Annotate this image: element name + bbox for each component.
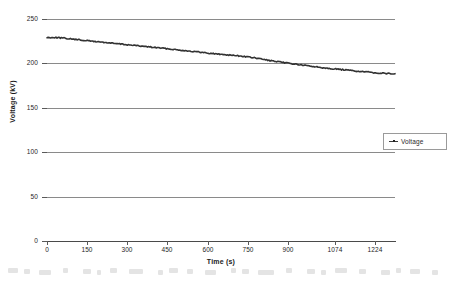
scan-noise-blob (8, 268, 18, 273)
x-tick-label: 1074 (315, 246, 355, 254)
plot-area (47, 19, 395, 241)
x-tick-label: 1224 (355, 246, 395, 254)
y-tick-label: 250 (27, 15, 38, 23)
y-tick-label: 0 (34, 237, 38, 245)
x-tick-mark (87, 241, 88, 245)
y-tick-label: 150 (27, 104, 38, 112)
scan-noise (8, 268, 338, 277)
scan-noise-blob (187, 269, 193, 274)
scan-noise-blob (286, 268, 292, 273)
x-axis-title: Time (s) (47, 258, 395, 265)
y-tick-label: 50 (31, 193, 38, 201)
voltage-decay-chart: Voltage (kV) 050100150200250 01503004506… (0, 0, 458, 283)
x-tick-label: 0 (27, 246, 67, 254)
x-tick-mark (288, 241, 289, 245)
y-tick-label: 100 (27, 148, 38, 156)
scan-noise-blob (231, 268, 236, 273)
x-tick-label: 900 (268, 246, 308, 254)
y-axis-title: Voltage (kV) (9, 52, 16, 152)
x-tick-label: 750 (228, 246, 268, 254)
scan-noise-blob (396, 268, 401, 273)
x-tick-mark (47, 241, 48, 245)
scan-noise-blob (39, 270, 51, 275)
line-dot-marker-icon (389, 138, 398, 145)
x-axis-line (47, 241, 396, 242)
scan-noise-blob (242, 269, 249, 274)
scan-noise-blob (410, 269, 420, 274)
scan-noise-blob (97, 270, 101, 275)
x-tick-mark (248, 241, 249, 245)
series-voltage-line (47, 19, 395, 241)
scan-noise-blob (335, 268, 347, 273)
x-tick-label: 450 (147, 246, 187, 254)
scan-noise-blob (129, 269, 143, 274)
x-tick-label: 300 (107, 246, 147, 254)
x-tick-label: 150 (67, 246, 107, 254)
scan-noise-blob (381, 270, 390, 275)
legend-entry-label: Voltage (401, 138, 423, 145)
scan-noise-blob (169, 268, 178, 273)
x-tick-mark (208, 241, 209, 245)
scan-noise-blob (158, 270, 163, 275)
scan-noise-blob (205, 270, 216, 275)
y-tick-mark (42, 108, 47, 109)
scan-noise-blob (432, 270, 438, 275)
y-tick-mark (42, 19, 47, 20)
scan-noise-blob (321, 270, 326, 275)
x-tick-mark (335, 241, 336, 245)
scan-noise-blob (24, 269, 30, 274)
scan-noise-blob (258, 270, 274, 275)
scan-noise-blob (83, 269, 91, 274)
legend: Voltage (383, 133, 447, 150)
scan-noise-blob (63, 268, 68, 273)
x-tick-mark (167, 241, 168, 245)
x-tick-mark (127, 241, 128, 245)
x-tick-label: 600 (188, 246, 228, 254)
scan-noise-blob (307, 269, 315, 274)
y-tick-mark (42, 63, 47, 64)
scan-noise-blob (110, 268, 117, 273)
scan-noise-blob (359, 269, 366, 274)
x-tick-mark (375, 241, 376, 245)
y-tick-mark (42, 152, 47, 153)
y-tick-label: 200 (27, 59, 38, 67)
y-tick-mark (42, 197, 47, 198)
